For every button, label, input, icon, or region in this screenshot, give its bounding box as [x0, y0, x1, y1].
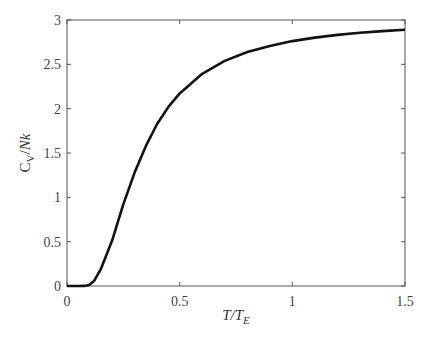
- x-tick-label: 1.5: [396, 294, 414, 309]
- x-tick-label: 0: [64, 294, 71, 309]
- y-tick-label: 1.5: [44, 146, 62, 161]
- y-tick-label: 0.5: [44, 235, 62, 250]
- y-tick-label: 2.5: [44, 57, 62, 72]
- data-line: [67, 30, 405, 286]
- y-tick-label: 2: [54, 102, 61, 117]
- y-axis-ticks: 00.511.522.53: [44, 13, 406, 294]
- x-tick-label: 0.5: [171, 294, 189, 309]
- x-axis-ticks: 00.511.5: [64, 20, 414, 309]
- plot-area: [67, 20, 405, 286]
- y-axis-label: CV/Nk: [17, 133, 36, 172]
- y-tick-label: 0: [54, 279, 61, 294]
- x-tick-label: 1: [289, 294, 296, 309]
- y-tick-label: 1: [54, 190, 61, 205]
- x-axis-label: T/TE: [222, 307, 250, 326]
- heat-capacity-chart: 00.511.522.53 00.511.5 T/TE CV/Nk: [0, 0, 433, 345]
- y-tick-label: 3: [54, 13, 61, 28]
